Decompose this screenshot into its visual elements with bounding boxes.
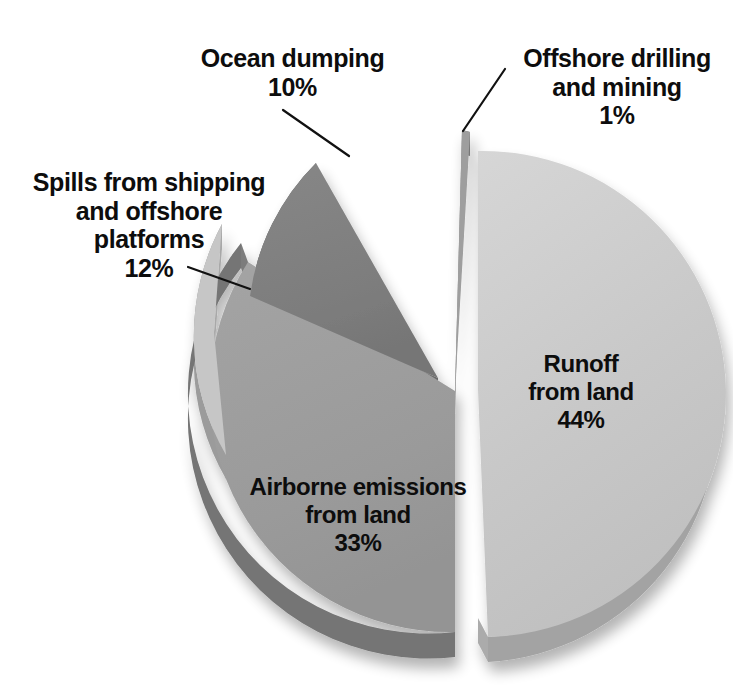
slice-label-ocean-dumping: Ocean dumping 10%: [185, 44, 400, 101]
slice-label-runoff: Runoff from land 44%: [506, 350, 656, 433]
leader-line-offshore-drilling: [463, 69, 505, 131]
leader-line-ocean-dumping: [283, 110, 349, 156]
pie-chart-figure: Ocean dumping 10% Offshore drilling and …: [0, 0, 733, 694]
slice-offshore-top: [455, 130, 470, 391]
slice-label-airborne: Airborne emissions from land 33%: [243, 473, 473, 556]
slice-label-spills: Spills from shipping and offshore platfo…: [18, 168, 280, 282]
slice-label-offshore-drilling: Offshore drilling and mining 1%: [508, 44, 726, 130]
